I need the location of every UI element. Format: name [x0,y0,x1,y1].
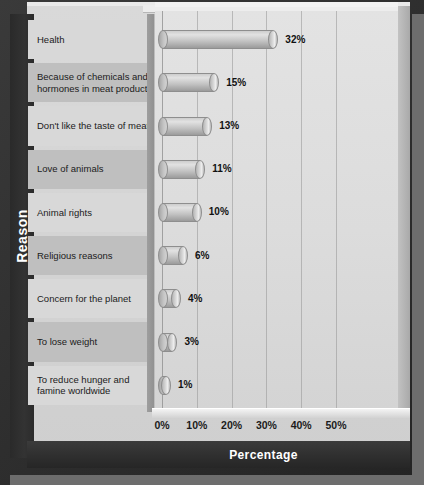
category-label: Don't like the taste of meat [28,106,154,145]
plot-right-wall [398,6,410,410]
bar-value-label: 4% [188,293,202,304]
plot-top-shelf-bevel [155,2,398,7]
x-axis-title: Percentage [229,448,298,462]
chart-root: Reason HealthBecause of chemicals and ho… [0,0,424,485]
plot-area: 32%15%13%11%10%6%4%3%1% [155,11,398,409]
bar-value-label: 1% [178,379,192,390]
bar-left-cap [158,203,168,222]
category-label: To reduce hunger and famine worldwide [28,366,154,405]
bar-series: 32%15%13%11%10%6%4%3%1% [155,11,398,409]
x-tick-label: 50% [325,419,346,431]
bar-left-cap [158,160,168,179]
gridline [162,11,163,409]
bar [162,30,273,49]
bar-value-label: 10% [209,206,229,217]
bar-left-cap [158,289,168,308]
category-label: Animal rights [28,193,154,232]
bar-left-cap [158,30,168,49]
bar-value-label: 15% [226,77,246,88]
bar-value-label: 11% [212,163,231,174]
bar [162,246,183,265]
bar-value-label: 32% [285,34,305,45]
bar-end-cap [171,289,181,308]
bar [162,160,200,179]
bar [162,203,197,222]
bar-left-cap [158,333,168,352]
category-label: Religious reasons [28,236,154,275]
bar-left-cap [158,376,168,395]
x-tick-label: 10% [186,419,207,431]
plot-floor [152,408,410,418]
bar [162,117,207,136]
bar-end-cap [202,117,212,136]
gridline [197,11,198,409]
category-label: To lose weight [28,322,154,361]
category-label: Because of chemicals and hormones in mea… [28,63,154,102]
bar-value-label: 13% [219,120,239,131]
frame-drop-shadow-bottom [10,475,424,485]
x-tick-label: 30% [256,419,277,431]
category-label: Health [28,20,154,59]
category-label-column: HealthBecause of chemicals and hormones … [28,20,154,409]
gridline [266,11,267,409]
x-axis-title-band: Percentage [27,441,410,468]
x-axis-ticks: 0%10%20%30%40%50% [155,419,413,435]
bar-left-cap [158,117,168,136]
bar-end-cap [268,30,278,49]
x-tick-label: 0% [154,419,169,431]
bar [162,333,172,352]
bar-left-cap [158,73,168,92]
bar-end-cap [178,246,188,265]
frame-drop-shadow-right [412,14,424,485]
x-tick-label: 40% [291,419,312,431]
gridline [301,11,302,409]
gridline [232,11,233,409]
category-label: Love of animals [28,150,154,189]
bar [162,289,176,308]
category-label: Concern for the planet [28,279,154,318]
bar-left-cap [158,246,168,265]
bar-end-cap [209,73,219,92]
bar [162,73,214,92]
x-tick-label: 20% [221,419,242,431]
bar-end-cap [167,333,177,352]
gridline [336,11,337,409]
